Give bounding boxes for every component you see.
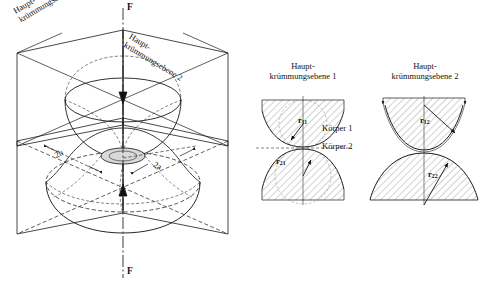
- heading-detail-plane1: Haupt- krümmungsebene 1: [248, 62, 358, 82]
- label-radius-r12: r12: [420, 116, 430, 126]
- label-force-bottom: F: [127, 266, 133, 277]
- label-radius-r11: r11: [298, 116, 307, 126]
- label-radius-r11-sub: 11: [302, 119, 307, 125]
- label-radius-r12-sub: 12: [424, 119, 430, 125]
- heading-detail-plane2: Haupt- krümmungsebene 2: [370, 62, 480, 82]
- figure-svg: [0, 0, 493, 288]
- plane-upper-left: [17, 30, 123, 146]
- label-leaders: [17, 33, 228, 53]
- heading-detail-plane2-line2: krümmungsebene 2: [370, 72, 480, 82]
- label-radius-r22: r22: [428, 170, 438, 180]
- label-body1: Körper 1: [322, 124, 352, 134]
- detail2-body2: [370, 153, 478, 200]
- heading-detail-plane1-line2: krümmungsebene 1: [248, 72, 358, 82]
- label-body2: Körper 2: [322, 142, 352, 152]
- label-radius-r21-sub: 21: [280, 160, 286, 166]
- label-radius-r21: r21: [276, 157, 286, 167]
- label-radius-r22-sub: 22: [432, 173, 438, 179]
- label-force-top: F: [127, 2, 133, 13]
- figure-root: Haupt- krümmungsebene 1 Haupt- krümmungs…: [0, 0, 493, 288]
- detail-plane2: [370, 96, 478, 205]
- plane-diagonals: [17, 53, 228, 234]
